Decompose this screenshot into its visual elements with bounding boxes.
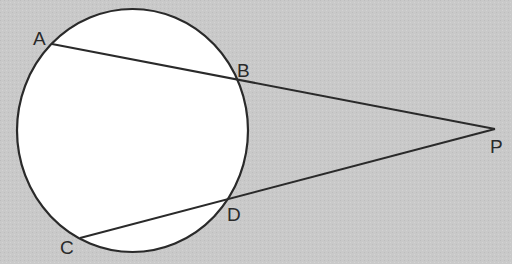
- point-label-p: P: [490, 136, 503, 157]
- geometry-figure: A B C D P: [0, 0, 512, 264]
- point-label-a: A: [33, 28, 46, 49]
- diagram-canvas: A B C D P: [0, 0, 512, 264]
- point-label-b: B: [237, 60, 250, 81]
- point-label-d: D: [227, 204, 241, 225]
- circle: [17, 9, 248, 252]
- point-label-c: C: [60, 237, 74, 258]
